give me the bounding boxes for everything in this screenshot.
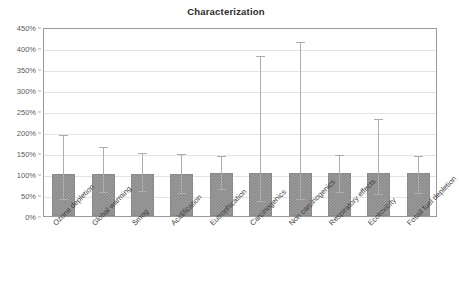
error-bar-line bbox=[300, 42, 301, 200]
y-tick-mark bbox=[38, 112, 41, 113]
error-bar-cap-upper bbox=[59, 135, 68, 136]
y-tick-mark bbox=[38, 175, 41, 176]
error-bar-cap-lower bbox=[374, 194, 383, 195]
y-tick-mark bbox=[38, 154, 41, 155]
error-bar-cap-upper bbox=[296, 42, 305, 43]
error-bar-line bbox=[103, 147, 104, 192]
error-bar-cap-upper bbox=[256, 56, 265, 57]
y-tick-mark bbox=[38, 28, 41, 29]
y-tick-mark bbox=[38, 49, 41, 50]
error-bar-cap-lower bbox=[217, 189, 226, 190]
error-bar-line bbox=[181, 154, 182, 193]
y-tick-mark bbox=[38, 217, 41, 218]
y-tick-mark bbox=[38, 196, 41, 197]
bar-group bbox=[52, 29, 75, 216]
error-bar-cap-upper bbox=[217, 156, 226, 157]
error-bar-cap-lower bbox=[59, 199, 68, 200]
bar-group bbox=[289, 29, 312, 216]
y-tick-label: 0% bbox=[25, 213, 36, 222]
error-bar-cap-upper bbox=[374, 119, 383, 120]
y-tick-label: 100% bbox=[17, 171, 36, 180]
y-tick-mark bbox=[38, 91, 41, 92]
y-tick-label: 350% bbox=[17, 66, 36, 75]
bar-group bbox=[131, 29, 154, 216]
error-bar-cap-upper bbox=[335, 155, 344, 156]
error-bar-cap-upper bbox=[99, 147, 108, 148]
x-axis: Ozone depletionGlobal warmingSmogAcidifi… bbox=[43, 217, 437, 293]
error-bar-line bbox=[221, 156, 222, 190]
error-bar-line bbox=[378, 119, 379, 193]
error-bar-cap-upper bbox=[138, 153, 147, 154]
y-tick-label: 250% bbox=[17, 108, 36, 117]
bar-group bbox=[407, 29, 430, 216]
error-bar-cap-lower bbox=[296, 199, 305, 200]
error-bar-line bbox=[339, 155, 340, 192]
error-bar-cap-upper bbox=[414, 156, 423, 157]
y-tick-label: 400% bbox=[17, 45, 36, 54]
y-axis: 0%50%100%150%200%250%300%350%400%450% bbox=[0, 28, 41, 217]
error-bar-line bbox=[63, 135, 64, 199]
bar-group bbox=[170, 29, 193, 216]
y-tick-label: 300% bbox=[17, 87, 36, 96]
error-bar-cap-lower bbox=[99, 192, 108, 193]
error-bar-cap-lower bbox=[138, 191, 147, 192]
error-bar-cap-upper bbox=[177, 154, 186, 155]
error-bar-line bbox=[142, 153, 143, 191]
error-bar-line bbox=[418, 156, 419, 193]
error-bar-cap-lower bbox=[414, 193, 423, 194]
error-bar-cap-lower bbox=[256, 201, 265, 202]
y-tick-label: 450% bbox=[17, 24, 36, 33]
chart-title: Characterization bbox=[0, 6, 452, 17]
y-tick-mark bbox=[38, 70, 41, 71]
bar-group bbox=[249, 29, 272, 216]
error-bar-cap-lower bbox=[335, 192, 344, 193]
bar-group bbox=[210, 29, 233, 216]
y-tick-label: 150% bbox=[17, 150, 36, 159]
error-bar-cap-lower bbox=[177, 193, 186, 194]
y-tick-label: 50% bbox=[21, 192, 36, 201]
y-tick-label: 200% bbox=[17, 129, 36, 138]
y-tick-mark bbox=[38, 133, 41, 134]
error-bar-line bbox=[260, 56, 261, 201]
